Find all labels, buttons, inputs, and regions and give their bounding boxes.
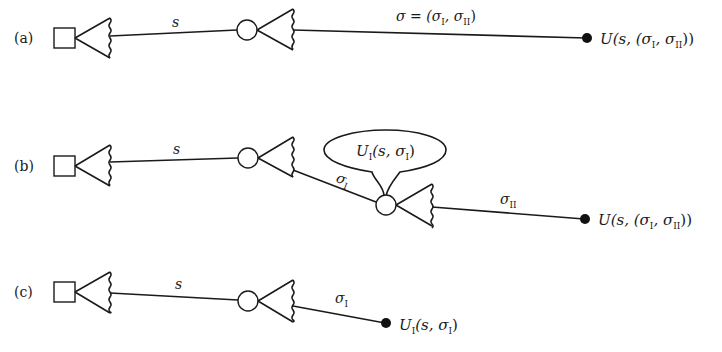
choice-fan-icon — [396, 184, 433, 228]
edge-label-s: s — [172, 14, 179, 30]
payoff-label: UI(s, σI) — [399, 316, 458, 336]
choice-fan-icon — [258, 137, 294, 177]
terminal-node-dot — [580, 214, 590, 224]
edge-label-s: s — [173, 141, 180, 157]
edge-s — [110, 158, 238, 162]
bubble-payoff-label: UI(s, σI) — [356, 142, 415, 162]
choice-fan-icon — [258, 280, 294, 322]
edge-sigma — [293, 30, 586, 38]
payoff-label: U(s, (σI, σII)) — [600, 30, 694, 50]
edge-label-s: s — [175, 276, 182, 292]
chance-node-circle — [237, 20, 257, 40]
edge-label-sigma-I: σI — [335, 290, 349, 309]
edge-sigma-I — [293, 306, 385, 323]
panel-label-b: (b) — [14, 158, 34, 174]
edge-label-sigma-I: σI — [333, 169, 352, 191]
edge-sigma-II — [432, 207, 584, 219]
edge-label-sigma-II: σII — [500, 191, 517, 210]
chance-node-circle — [238, 291, 258, 311]
chance-node-circle — [376, 195, 396, 215]
edge-sigma-I — [293, 170, 376, 202]
decision-node-square — [54, 156, 75, 176]
choice-fan-icon — [257, 9, 294, 50]
decision-node-square — [54, 28, 75, 48]
game-tree-diagram: (a) s σ = (σI, σII) U(s, (σI, σII)) (b) — [0, 0, 722, 352]
terminal-node-dot — [582, 33, 592, 43]
chance-node-circle — [238, 148, 258, 168]
payoff-label: U(s, (σI, σII)) — [598, 211, 692, 231]
choice-fan-icon — [75, 145, 111, 186]
decision-node-square — [54, 282, 75, 302]
panel-label-c: (c) — [14, 284, 33, 300]
panel-b: (b) s σI UI(s, σI) σII — [14, 130, 692, 231]
panel-label-a: (a) — [14, 30, 33, 46]
edge-s — [110, 293, 238, 300]
terminal-node-dot — [381, 318, 391, 328]
panel-a: (a) s σ = (σI, σII) U(s, (σI, σII)) — [14, 8, 694, 58]
panel-c: (c) s σI UI(s, σI) — [14, 272, 458, 336]
choice-fan-icon — [75, 272, 111, 313]
edge-s — [110, 30, 237, 36]
edge-label-sigma: σ = (σI, σII) — [396, 8, 476, 27]
choice-fan-icon — [75, 18, 111, 58]
